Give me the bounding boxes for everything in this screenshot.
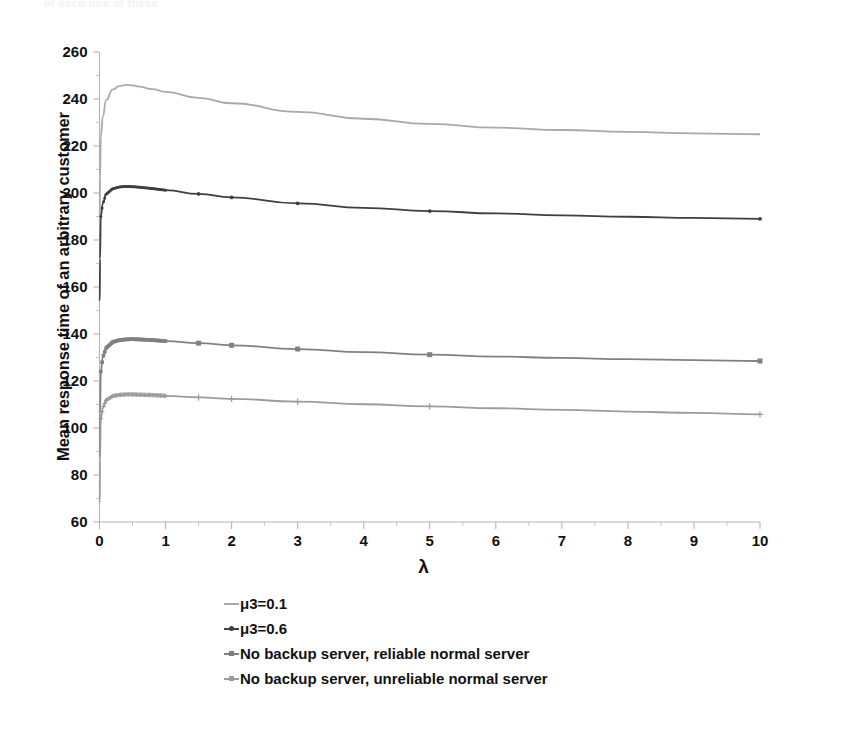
- x-tick-label: 7: [547, 532, 577, 549]
- legend-key-icon: [224, 647, 239, 661]
- series-line-1: [100, 85, 760, 221]
- x-tick-label: 0: [85, 532, 115, 549]
- legend-label: μ3=0.6: [240, 621, 287, 636]
- legend-item-1[interactable]: μ3=0.1: [224, 591, 644, 616]
- y-tick-label: 240: [44, 90, 88, 107]
- y-tick-label: 80: [44, 466, 88, 483]
- x-tick-label: 10: [745, 532, 775, 549]
- series-line-2: [99, 185, 762, 301]
- legend-key-icon: [224, 672, 239, 686]
- x-tick-label: 9: [679, 532, 709, 549]
- y-tick-label: 160: [44, 278, 88, 295]
- x-tick-label: 6: [481, 532, 511, 549]
- legend-item-4[interactable]: No backup server, unreliable normal serv…: [224, 666, 644, 691]
- legend-label: μ3=0.1: [240, 596, 287, 611]
- series-lines: [99, 85, 764, 503]
- y-tick-label: 260: [44, 43, 88, 60]
- legend-label: No backup server, reliable normal server: [240, 646, 529, 661]
- y-tick-label: 200: [44, 184, 88, 201]
- y-tick-label: 60: [44, 513, 88, 530]
- legend-label: No backup server, unreliable normal serv…: [240, 671, 548, 686]
- legend-key-icon: [224, 597, 239, 611]
- x-tick-label: 1: [151, 532, 181, 549]
- x-tick-label: 2: [217, 532, 247, 549]
- series-line-4: [99, 392, 764, 503]
- x-axis-title: λ: [0, 556, 847, 578]
- x-tick-label: 3: [283, 532, 313, 549]
- chart-legend: μ3=0.1μ3=0.6No backup server, reliable n…: [224, 591, 644, 691]
- chart-figure: of each one of these Mean response time …: [0, 0, 847, 744]
- legend-key-icon: [224, 622, 239, 636]
- y-tick-label: 220: [44, 137, 88, 154]
- x-tick-label: 8: [613, 532, 643, 549]
- legend-item-3[interactable]: No backup server, reliable normal server: [224, 641, 644, 666]
- legend-item-2[interactable]: μ3=0.6: [224, 616, 644, 641]
- y-tick-label: 120: [44, 372, 88, 389]
- y-tick-label: 100: [44, 419, 88, 436]
- x-tick-label: 4: [349, 532, 379, 549]
- x-tick-label: 5: [415, 532, 445, 549]
- y-tick-label: 140: [44, 325, 88, 342]
- y-tick-label: 180: [44, 231, 88, 248]
